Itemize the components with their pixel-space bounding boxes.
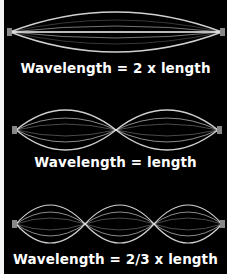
standing-wave-mode-2	[4, 104, 227, 154]
caption-mode-3: Wavelength = 2/3 x length	[4, 251, 227, 267]
caption-mode-1: Wavelength = 2 x length	[4, 60, 227, 76]
left-fixed-end	[12, 126, 17, 134]
right-fixed-end	[220, 220, 225, 228]
diagram-panel: Wavelength = 2 x length Wavelength = len…	[4, 0, 227, 274]
standing-wave-mode-1	[4, 4, 227, 60]
standing-wave-mode-3	[4, 196, 227, 248]
caption-mode-2: Wavelength = length	[4, 154, 227, 170]
right-fixed-end	[220, 28, 225, 36]
left-fixed-end	[7, 28, 12, 36]
left-fixed-end	[12, 220, 17, 228]
right-margin	[227, 0, 232, 274]
right-fixed-end	[217, 126, 222, 134]
